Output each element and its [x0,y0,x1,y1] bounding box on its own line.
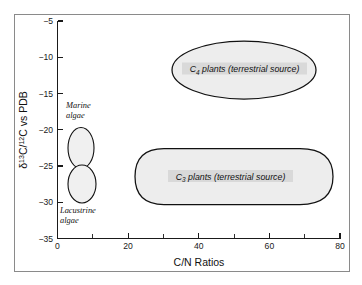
lacustrine-algae-label-line2: algae [60,216,79,225]
y-tick-label: −30 [38,197,53,207]
x-axis-tick-labels: 0 20 40 60 80 [55,241,345,251]
y-tick-label: −35 [38,234,53,244]
marine-algae-label: Marine algae [65,101,91,120]
x-tick-label: 20 [123,241,133,251]
marine-algae-label-line2: algae [66,111,85,120]
region-c3-plants: C3 plants (terrestrial source) [135,149,333,205]
marine-algae-ellipse [68,128,94,169]
y-tick-label: −10 [38,52,53,62]
lacustrine-algae-label-line1: Lacustrine [59,206,96,215]
x-tick-label: 80 [335,241,345,251]
region-c4-plants: C4 plants (terrestrial source) [172,41,316,99]
y-axis-title: δ13C/12C vs PDB [17,91,29,168]
lacustrine-algae-ellipse [68,165,96,203]
x-axis-ticks [58,233,341,239]
lacustrine-algae-label: Lacustrine algae [59,206,96,225]
y-axis-tick-labels: −5 −10 −15 −20 −25 −30 −35 [38,16,53,244]
y-tick-label: −15 [38,89,53,99]
x-tick-label: 40 [194,241,204,251]
x-tick-label: 60 [265,241,275,251]
figure-container: −5 −10 −15 −20 −25 −30 −35 0 20 40 [0,0,362,285]
c4-plants-label: C4 plants (terrestrial source) [190,64,300,75]
chart-plot-area: −5 −10 −15 −20 −25 −30 −35 0 20 40 [0,0,362,285]
y-tick-label: −20 [38,125,53,135]
region-marine-algae [68,128,94,169]
x-tick-label: 0 [55,241,60,251]
x-axis-title: C/N Ratios [174,256,225,268]
c3-plants-label: C3 plants (terrestrial source) [176,172,286,183]
y-tick-label: −25 [38,161,53,171]
region-lacustrine-algae [68,165,96,203]
y-tick-label: −5 [43,16,53,26]
marine-algae-label-line1: Marine [65,101,91,110]
